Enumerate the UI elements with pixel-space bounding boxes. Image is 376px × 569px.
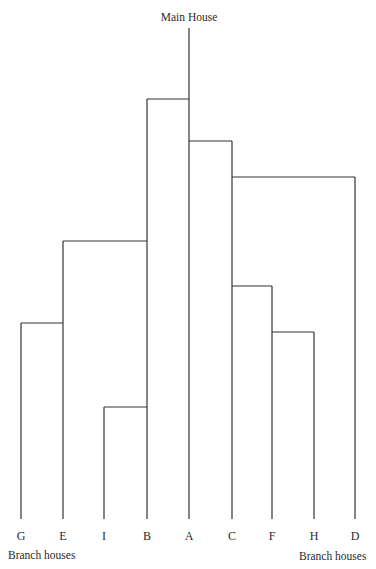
leaf-label-b: B xyxy=(143,530,151,542)
branch-houses-label-right: Branch houses xyxy=(299,550,366,562)
branch-houses-label-left: Branch houses xyxy=(8,549,75,561)
leaf-label-e: E xyxy=(59,530,66,542)
leaf-label-a: A xyxy=(185,530,194,542)
leaf-label-c: C xyxy=(228,530,236,542)
leaf-label-d: D xyxy=(351,530,360,542)
root-label-main-house: Main House xyxy=(161,11,218,23)
leaf-label-f: F xyxy=(269,530,276,542)
leaf-label-g: G xyxy=(17,530,26,542)
dendrogram xyxy=(0,0,376,569)
leaf-label-h: H xyxy=(310,530,319,542)
leaf-label-i: I xyxy=(102,530,106,542)
